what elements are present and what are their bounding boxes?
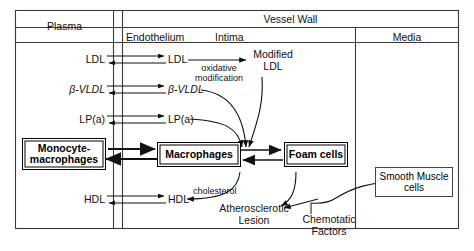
arrow-foamcell-to-lesion bbox=[281, 172, 296, 206]
label-intima-bvldl: β-VLDL bbox=[168, 84, 204, 96]
header-plasma-label: Plasma bbox=[47, 20, 82, 32]
label-plasma-hdl: HDL bbox=[35, 194, 105, 206]
annotation-chemotatic-line2: Factors bbox=[292, 226, 366, 238]
box-smooth-muscle-line2: cells bbox=[404, 182, 424, 194]
annotation-atherosclerotic-lesion: Atherosclerotic Lesion bbox=[213, 203, 295, 226]
label-intima-hdl: HDL bbox=[168, 194, 189, 206]
box-foam-cells-label: Foam cells bbox=[289, 149, 343, 161]
label-plasma-lpa-text: LP(a) bbox=[79, 113, 105, 125]
label-intima-hdl-text: HDL bbox=[168, 193, 189, 205]
annotation-oxidative-modification: oxidative modification bbox=[185, 63, 253, 83]
label-plasma-hdl-text: HDL bbox=[84, 193, 105, 205]
annotation-cholesterol: cholesterol bbox=[193, 186, 237, 196]
annotation-lesion-line1: Atherosclerotic bbox=[213, 203, 295, 215]
header-media: Media bbox=[356, 31, 458, 43]
arrow-pair-macrophage-foamcell bbox=[241, 150, 283, 160]
label-plasma-bvldl: β-VLDL bbox=[25, 84, 105, 96]
box-monocyte-macrophages[interactable]: Monocyte- macrophages bbox=[22, 138, 106, 170]
box-macrophages-label: Macrophages bbox=[165, 149, 233, 161]
label-plasma-lpa: LP(a) bbox=[35, 114, 105, 126]
annotation-lesion-line2: Lesion bbox=[213, 215, 295, 227]
annotation-chemotatic-factors: Chemotatic Factors bbox=[292, 214, 366, 237]
arrow-pair-lpa bbox=[107, 116, 166, 123]
box-macrophages[interactable]: Macrophages bbox=[157, 142, 241, 167]
label-intima-lpa-text: LP(a) bbox=[168, 113, 194, 125]
label-plasma-bvldl-text: β-VLDL bbox=[69, 83, 105, 95]
annotation-oxidative-line1: oxidative bbox=[185, 63, 253, 73]
arrow-pair-bvldl bbox=[107, 86, 166, 93]
annotation-modified-ldl-line2: LDL bbox=[245, 61, 301, 73]
box-foam-cells[interactable]: Foam cells bbox=[284, 142, 348, 167]
header-intima: Intima bbox=[215, 31, 275, 43]
header-vessel-wall: Vessel Wall bbox=[123, 13, 458, 25]
header-intima-label: Intima bbox=[215, 31, 244, 43]
label-plasma-ldl-text: LDL bbox=[86, 53, 105, 65]
annotation-modified-ldl-line1: Modified bbox=[245, 49, 301, 61]
arrow-pair-hdl bbox=[107, 196, 166, 203]
annotation-cholesterol-text: cholesterol bbox=[193, 186, 237, 196]
annotation-modified-ldl: Modified LDL bbox=[245, 49, 301, 72]
label-plasma-ldl: LDL bbox=[35, 54, 105, 66]
label-intima-lpa: LP(a) bbox=[168, 114, 194, 126]
arrow-pair-ldl bbox=[107, 56, 166, 63]
header-vessel-wall-label: Vessel Wall bbox=[264, 13, 318, 25]
header-plasma: Plasma bbox=[16, 20, 113, 32]
annotation-oxidative-line2: modification bbox=[185, 73, 253, 83]
label-intima-bvldl-text: β-VLDL bbox=[168, 83, 204, 95]
annotation-chemotatic-line1: Chemotatic bbox=[292, 214, 366, 226]
header-media-label: Media bbox=[393, 31, 422, 43]
box-smooth-muscle-line1: Smooth Muscle bbox=[380, 171, 449, 183]
box-monocyte-macrophages-line2: macrophages bbox=[30, 154, 98, 166]
box-smooth-muscle-cells[interactable]: Smooth Muscle cells bbox=[375, 167, 453, 197]
header-endothelium-label: Endothelium bbox=[126, 31, 184, 43]
atherosclerosis-diagram: Plasma Vessel Wall Endothelium Intima Me… bbox=[0, 0, 474, 251]
